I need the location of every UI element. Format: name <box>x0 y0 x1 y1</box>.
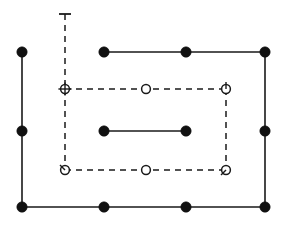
solid-node-right-mid <box>260 126 270 136</box>
solid-node-bottom-mid-left <box>99 202 109 212</box>
diagram-root <box>0 0 282 226</box>
solid-nodes-layer <box>17 47 270 212</box>
open-nodes-layer <box>58 82 230 175</box>
open-node-dashed-top-right <box>222 82 231 93</box>
solid-node-bottom-mid-right <box>181 202 191 212</box>
outer-solid-path <box>22 52 265 207</box>
open-circle-icon <box>142 85 151 94</box>
open-node-dashed-top-mid <box>142 85 151 94</box>
solid-node-inner-segment-right <box>181 126 191 136</box>
solid-edges-layer <box>22 52 265 207</box>
diagram-canvas <box>0 0 282 226</box>
solid-node-bottom-right-corner <box>260 202 270 212</box>
solid-node-top-mid-left <box>99 47 109 57</box>
solid-node-left-mid <box>17 126 27 136</box>
solid-node-top-mid-right <box>181 47 191 57</box>
solid-node-inner-segment-left <box>99 126 109 136</box>
open-circle-icon <box>142 166 151 175</box>
open-node-dashed-bottom-left <box>60 165 69 174</box>
solid-node-top-right-corner <box>260 47 270 57</box>
solid-node-bottom-left-corner <box>17 202 27 212</box>
open-node-dashed-bottom-mid <box>142 166 151 175</box>
solid-node-top-left-corner <box>17 47 27 57</box>
open-node-dashed-bottom-right <box>221 166 230 175</box>
open-node-dashed-top-left-crossed <box>58 82 71 95</box>
